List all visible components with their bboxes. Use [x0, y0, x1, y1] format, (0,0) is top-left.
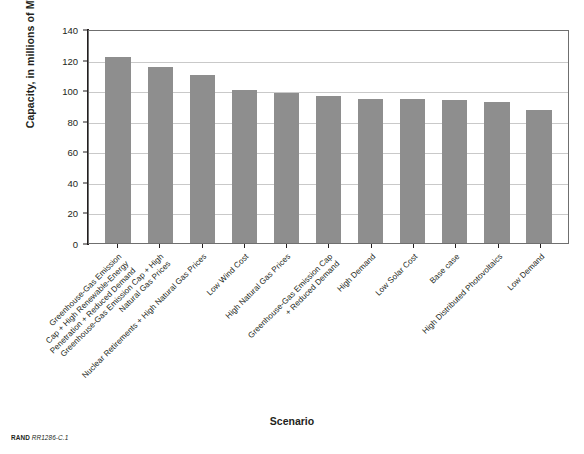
- x-label-slot: Greenhouse-Gas Emission Cap + High Natur…: [138, 250, 180, 400]
- x-label-slot: High Demand: [350, 250, 392, 400]
- bar-slot: [307, 31, 349, 243]
- bar[interactable]: [105, 57, 130, 243]
- bar[interactable]: [190, 75, 215, 243]
- figure-id: RR1286-C.1: [32, 434, 69, 441]
- bar-slot: [434, 31, 476, 243]
- bar[interactable]: [484, 102, 509, 243]
- x-tick-mark: [455, 244, 456, 248]
- x-tick-mark: [202, 244, 203, 248]
- x-tick-mark: [498, 244, 499, 248]
- x-label-slot: Nuclear Retirements + High Natural Gas P…: [181, 250, 223, 400]
- bar[interactable]: [232, 90, 257, 243]
- x-axis-labels: Greenhouse-Gas Emission Cap + High Renew…: [88, 250, 569, 400]
- figure-container: Capacity, in millions of MW-miles 020406…: [0, 0, 584, 454]
- bar-slot: [518, 31, 560, 243]
- bar[interactable]: [274, 93, 299, 243]
- y-tick-label: 20: [67, 208, 78, 219]
- bar-slot: [97, 31, 139, 243]
- x-label-slot: Base case: [434, 250, 476, 400]
- x-tick-mark: [117, 244, 118, 248]
- x-tick-mark: [371, 244, 372, 248]
- bar-slot: [392, 31, 434, 243]
- y-tick-label: 80: [67, 116, 78, 127]
- y-axis-ticks: 020406080100120140: [0, 30, 88, 244]
- bar-slot: [181, 31, 223, 243]
- source-footer: RAND RR1286-C.1: [11, 434, 68, 441]
- x-tick-mark: [244, 244, 245, 248]
- bar[interactable]: [400, 99, 425, 243]
- plot-area: [88, 30, 569, 244]
- x-tick-mark: [328, 244, 329, 248]
- x-axis-title: Scenario: [0, 415, 584, 427]
- x-label-slot: Low Demand: [519, 250, 561, 400]
- x-tick-mark: [159, 244, 160, 248]
- rand-brand: RAND: [11, 434, 30, 441]
- x-tick-mark: [540, 244, 541, 248]
- bar[interactable]: [526, 110, 551, 243]
- x-label-slot: Greenhouse-Gas Emission Cap + Reduced De…: [307, 250, 349, 400]
- bar[interactable]: [358, 99, 383, 243]
- bar-slot: [223, 31, 265, 243]
- bar-slot: [265, 31, 307, 243]
- x-tick-label: Base case: [428, 252, 462, 286]
- y-tick-label: 60: [67, 147, 78, 158]
- y-tick-label: 100: [62, 86, 78, 97]
- bar-slot: [350, 31, 392, 243]
- bar-series: [89, 31, 568, 243]
- y-tick-label: 40: [67, 177, 78, 188]
- bar[interactable]: [316, 96, 341, 243]
- bar[interactable]: [442, 100, 467, 243]
- x-tick-mark: [286, 244, 287, 248]
- bar-slot: [476, 31, 518, 243]
- y-tick-label: 0: [73, 239, 78, 250]
- x-label-slot: High Distributed Photovoltaics: [476, 250, 518, 400]
- bar-slot: [139, 31, 181, 243]
- x-tick-mark: [413, 244, 414, 248]
- y-tick-label: 120: [62, 55, 78, 66]
- bar[interactable]: [148, 67, 173, 243]
- y-tick-label: 140: [62, 25, 78, 36]
